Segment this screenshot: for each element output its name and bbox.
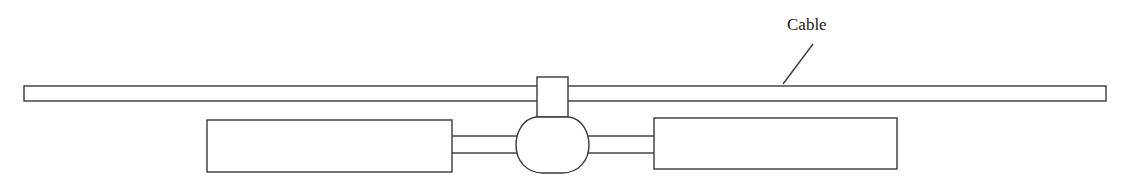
cable-leader-line xyxy=(783,44,813,84)
right-arm xyxy=(584,136,655,153)
left-box xyxy=(207,120,452,172)
right-box xyxy=(654,118,897,169)
clamp xyxy=(537,77,568,117)
cable-label: Cable xyxy=(787,15,827,34)
left-arm xyxy=(451,136,521,153)
cable-diagram: Cable xyxy=(0,0,1134,184)
central-body xyxy=(516,117,589,173)
